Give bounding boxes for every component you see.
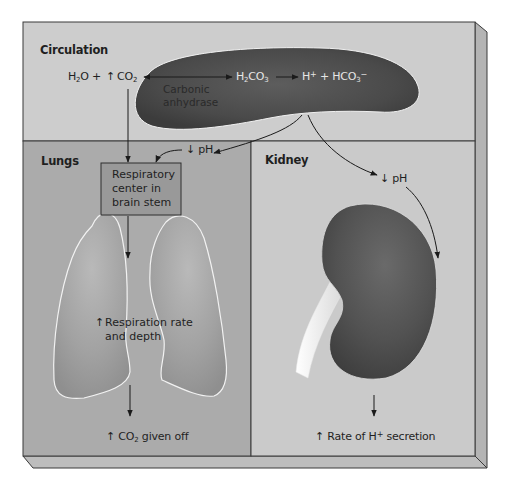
lungs-title: Lungs — [41, 155, 79, 168]
reactant-co2: CO2 — [117, 70, 137, 83]
co2-increase-icon: ↑ — [106, 430, 115, 443]
enzyme-line-1: Carbonic — [163, 83, 218, 96]
enzyme-label: Carbonic anhydrase — [163, 83, 218, 109]
reactant-h2o: H2O + — [68, 70, 101, 83]
respiration-line-1: Respiration rate — [105, 316, 193, 330]
respiration-label: Respiration rate and depth — [105, 316, 193, 344]
co2-output-label: ↑ CO2 given off — [106, 430, 188, 443]
enzyme-line-2: anhydrase — [163, 96, 218, 109]
center-line-1: Respiratory — [112, 168, 175, 182]
circulation-title: Circulation — [40, 44, 108, 57]
secretion-increase-icon: ↑ — [315, 430, 324, 443]
respiration-line-2: and depth — [105, 330, 193, 344]
kidney-ph-label: ↓ pH — [380, 172, 407, 185]
h-secretion-label: ↑ Rate of H+ secretion — [315, 430, 435, 443]
product-ions: H+ + HCO3− — [302, 70, 367, 83]
kidney-title: Kidney — [265, 154, 308, 167]
lungs-ph-label: ↓ pH — [186, 143, 213, 156]
kidney-organ-shape — [322, 204, 437, 379]
respiratory-center-label: Respiratory center in brain stem — [112, 168, 175, 210]
center-line-3: brain stem — [112, 196, 175, 210]
increase-arrow-icon: ↑ — [106, 70, 115, 83]
respiration-increase-icon: ↑ — [95, 316, 104, 329]
center-line-2: center in — [112, 182, 175, 196]
intermediate-h2co3: H2CO3 — [236, 70, 269, 83]
decrease-arrow-icon: ↓ — [186, 143, 195, 156]
kidney-decrease-arrow-icon: ↓ — [380, 172, 389, 185]
